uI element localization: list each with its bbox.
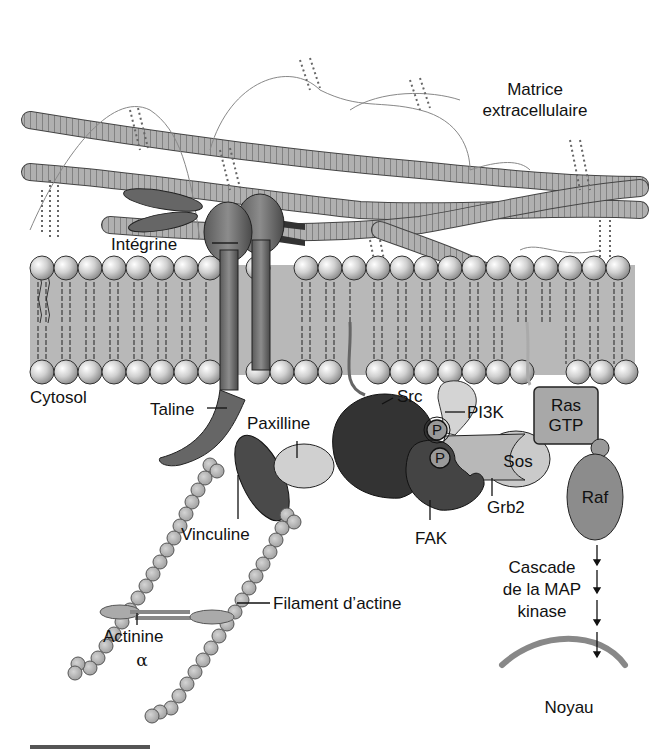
phospholipid-heads-upper bbox=[30, 256, 630, 280]
actin-filament-left bbox=[68, 458, 224, 680]
label-integrin: Intégrine bbox=[111, 235, 177, 254]
label-pi3k: PI3K bbox=[467, 403, 505, 422]
nuclear-envelope bbox=[502, 639, 625, 665]
paxillin bbox=[274, 444, 334, 488]
phospho-p-upper: P bbox=[424, 417, 450, 443]
label-extracellulaire: extracellulaire bbox=[483, 101, 588, 120]
label-talin: Taline bbox=[150, 400, 194, 419]
lipid-bilayer bbox=[30, 265, 635, 375]
label-fak: FAK bbox=[415, 529, 448, 548]
diagram-svg: P P bbox=[0, 0, 669, 749]
label-ras: Ras bbox=[551, 396, 581, 415]
label-src: Src bbox=[397, 387, 423, 406]
label-cytosol: Cytosol bbox=[30, 388, 87, 407]
label-grb2: Grb2 bbox=[487, 498, 525, 517]
label-vinculin: Vinculine bbox=[181, 525, 250, 544]
svg-text:P: P bbox=[435, 449, 445, 466]
integrin-signaling-diagram: P P bbox=[0, 0, 669, 749]
label-actinin: Actinine bbox=[103, 627, 163, 646]
label-paxillin: Paxilline bbox=[247, 414, 310, 433]
label-gtp: GTP bbox=[549, 416, 584, 435]
label-cascade: Cascade bbox=[508, 558, 575, 577]
label-noyau: Noyau bbox=[544, 698, 593, 717]
scale-bar bbox=[30, 745, 150, 749]
label-actin-filament: Filament d’actine bbox=[273, 594, 402, 613]
label-alpha: α bbox=[136, 650, 148, 670]
label-sos: Sos bbox=[503, 452, 532, 471]
phospho-p-lower: P bbox=[430, 448, 450, 468]
label-matrice: Matrice bbox=[507, 80, 563, 99]
label-kinase: kinase bbox=[517, 602, 566, 621]
label-raf: Raf bbox=[582, 488, 609, 507]
svg-text:P: P bbox=[432, 421, 442, 438]
label-de-la-map: de la MAP bbox=[503, 580, 581, 599]
